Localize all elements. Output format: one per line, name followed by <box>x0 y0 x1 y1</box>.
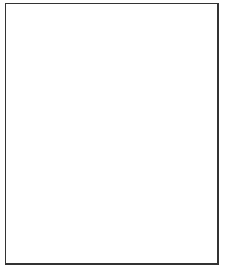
stitch-diagram <box>0 0 225 273</box>
